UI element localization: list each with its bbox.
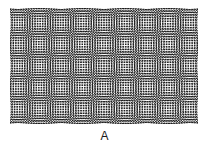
panel-label: A [0,130,209,143]
figure-panel-a: A [0,0,209,147]
moire-pattern-image [10,8,198,124]
moire-pattern-canvas [10,8,198,124]
